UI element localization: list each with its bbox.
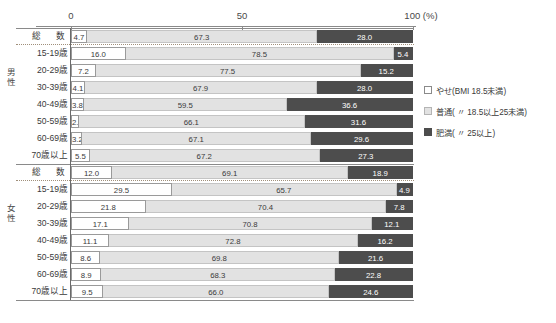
bar-segment-thin: 11.1 (71, 234, 109, 247)
row-label-female-4: 40-49歳 (18, 232, 68, 249)
legend-label-obese: 肥満( 〃 25以上) (436, 126, 495, 138)
chart-row: 20-29歳7.277.515.2 (0, 62, 556, 79)
legend-label-thin: やせ(BMI 18.5未満) (436, 84, 506, 96)
axis-tick-label-100: 100 (%) (404, 10, 437, 21)
legend-item-obese: 肥満( 〃 25以上) (424, 126, 554, 138)
bar-segment-thin: 4.7 (71, 30, 87, 43)
bar-segment-normal: 67.3 (87, 30, 317, 43)
chart-row: 20-29歳21.870.47.8 (0, 198, 556, 215)
row-label-male-2: 20-29歳 (18, 62, 68, 79)
bar-segment-normal: 67.1 (82, 132, 311, 145)
legend-swatch-obese-icon (424, 128, 432, 136)
row-label-female-2: 20-29歳 (18, 198, 68, 215)
chart-row: 70歳以上9.566.024.6 (0, 283, 556, 300)
bar-segment-obese: 28.0 (317, 81, 413, 94)
bar-segment-obese: 18.9 (348, 166, 413, 179)
chart-bottom-rule (16, 300, 414, 301)
bar-segment-obese: 7.8 (386, 200, 413, 213)
bar-segment-obese: 16.2 (358, 234, 413, 247)
bar-segment-normal: 68.3 (101, 268, 335, 281)
row-label-male-4: 40-49歳 (18, 96, 68, 113)
bar-track: 3.859.536.6 (71, 98, 413, 111)
bar-segment-normal: 66.0 (103, 285, 329, 298)
bar-segment-thin: 4.1 (71, 81, 85, 94)
legend-item-thin: やせ(BMI 18.5未満) (424, 84, 554, 96)
bar-segment-obese: 21.6 (339, 251, 413, 264)
zero-baseline (70, 28, 71, 300)
bar-track: 17.170.812.1 (71, 217, 413, 230)
bar-segment-thin: 8.6 (71, 251, 100, 264)
axis-tick-label-0: 0 (68, 10, 73, 21)
bar-segment-thin: 21.8 (71, 200, 146, 213)
bar-segment-obese: 15.2 (361, 64, 413, 77)
bar-segment-obese: 28.0 (317, 30, 413, 43)
legend-swatch-thin-icon (424, 86, 432, 94)
row-label-female-7: 70歳以上 (18, 283, 68, 300)
bar-track: 7.277.515.2 (71, 64, 413, 77)
bar-track: 12.069.118.9 (71, 166, 413, 179)
bar-segment-thin: 5.5 (71, 149, 90, 162)
chart-row: 総 数12.069.118.9 (0, 164, 556, 181)
bar-segment-thin: 16.0 (71, 47, 126, 60)
bar-segment-normal: 70.4 (146, 200, 387, 213)
bar-track: 8.669.821.6 (71, 251, 413, 264)
bar-segment-normal: 67.2 (90, 149, 320, 162)
chart-row: 15-19歳29.565.74.9 (0, 181, 556, 198)
bar-segment-thin: 29.5 (71, 183, 172, 196)
bar-segment-obese: 4.9 (397, 183, 414, 196)
bar-segment-obese: 27.3 (320, 149, 413, 162)
row-label-male-7: 70歳以上 (18, 147, 68, 164)
bar-segment-obese: 12.1 (372, 217, 413, 230)
bar-segment-obese: 22.8 (335, 268, 413, 281)
row-label-female-3: 30-39歳 (18, 215, 68, 232)
bar-track: 29.565.74.9 (71, 183, 413, 196)
bar-segment-thin: 9.5 (71, 285, 103, 298)
row-label-female-0: 総 数 (18, 164, 69, 181)
chart-row: 総 数4.767.328.0 (0, 28, 556, 45)
bar-segment-normal: 65.7 (172, 183, 397, 196)
bar-segment-normal: 67.9 (85, 81, 317, 94)
bar-track: 9.566.024.6 (71, 285, 413, 298)
bar-track: 16.078.55.4 (71, 47, 413, 60)
chart-rows: 総 数4.767.328.015-19歳16.078.55.420-29歳7.2… (0, 28, 556, 300)
bar-segment-obese: 29.6 (311, 132, 412, 145)
chart-row: 30-39歳17.170.812.1 (0, 215, 556, 232)
bar-segment-normal: 70.8 (129, 217, 371, 230)
chart-row: 50-59歳8.669.821.6 (0, 249, 556, 266)
bar-segment-obese: 5.4 (394, 47, 412, 60)
chart-x-axis: 0 50 100 (%) (0, 0, 556, 28)
chart-row: 70歳以上5.567.227.3 (0, 147, 556, 164)
bar-track: 11.172.816.2 (71, 234, 413, 247)
bmi-distribution-chart: 0 50 100 (%) 男性 女性 総 数4.767.328.015-19歳1… (0, 0, 556, 323)
legend-swatch-normal-icon (424, 107, 432, 115)
bar-segment-normal: 69.8 (100, 251, 339, 264)
row-label-male-5: 50-59歳 (18, 113, 68, 130)
axis-tick-label-50: 50 (237, 10, 248, 21)
bar-segment-thin: 3.8 (71, 98, 84, 111)
bar-segment-normal: 77.5 (96, 64, 361, 77)
bar-segment-thin: 12.0 (71, 166, 112, 179)
bar-track: 3.267.129.6 (71, 132, 413, 145)
bar-segment-obese: 36.6 (287, 98, 412, 111)
row-label-male-0: 総 数 (18, 28, 69, 45)
bar-segment-thin: 3.2 (71, 132, 82, 145)
bar-segment-normal: 72.8 (109, 234, 358, 247)
chart-row: 15-19歳16.078.55.4 (0, 45, 556, 62)
bar-segment-obese: 31.6 (305, 115, 413, 128)
chart-row: 60-69歳8.968.322.8 (0, 266, 556, 283)
bar-track: 4.167.928.0 (71, 81, 413, 94)
legend-label-normal: 普通( 〃 18.5以上25未満) (436, 105, 527, 117)
bar-segment-obese: 24.6 (329, 285, 413, 298)
bar-segment-thin: 8.9 (71, 268, 101, 281)
bar-track: 5.567.227.3 (71, 149, 413, 162)
bar-segment-normal: 69.1 (112, 166, 348, 179)
legend-item-normal: 普通( 〃 18.5以上25未満) (424, 105, 554, 117)
axis-line (36, 26, 416, 27)
bar-segment-thin: 17.1 (71, 217, 129, 230)
row-label-male-6: 60-69歳 (18, 130, 68, 147)
chart-row: 40-49歳11.172.816.2 (0, 232, 556, 249)
bar-segment-thin: 2.3 (71, 115, 79, 128)
row-label-female-5: 50-59歳 (18, 249, 68, 266)
row-label-female-1: 15-19歳 (18, 181, 68, 198)
row-label-female-6: 60-69歳 (18, 266, 68, 283)
